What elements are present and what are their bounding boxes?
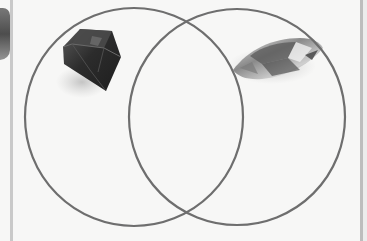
venn-canvas <box>0 0 367 241</box>
venn-circle-left <box>25 8 243 226</box>
venn-diagram <box>0 0 367 241</box>
venn-circle-right <box>129 9 345 225</box>
